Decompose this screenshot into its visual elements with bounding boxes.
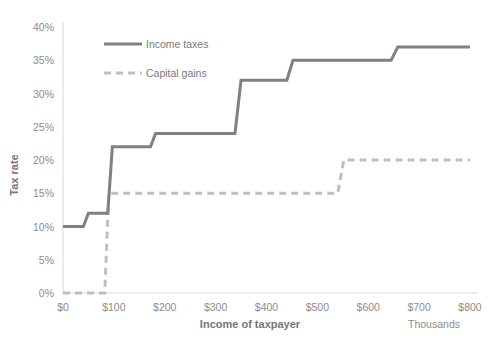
series-line-capital-gains [63, 160, 470, 293]
series-line-income-taxes [63, 47, 470, 227]
tax-rate-chart: 0%5%10%15%20%25%30%35%40% $0$100$200$300… [0, 0, 494, 349]
x-tick-label: $0 [57, 301, 69, 313]
y-axis-title: Tax rate [8, 154, 20, 195]
x-tick-label: $100 [102, 301, 126, 313]
y-tick-label: 30% [33, 88, 54, 100]
x-tick-label: $400 [255, 301, 279, 313]
y-tick-label: 40% [33, 21, 54, 33]
chart-legend: Income taxesCapital gains [104, 38, 208, 79]
x-axis-tick-labels: $0$100$200$300$400$500$600$700$800 [57, 301, 482, 313]
x-tick-label: $700 [407, 301, 431, 313]
x-tick-label: $200 [153, 301, 177, 313]
y-tick-label: 35% [33, 54, 54, 66]
y-tick-label: 5% [39, 254, 54, 266]
x-tick-label: $800 [458, 301, 482, 313]
x-axis-title: Income of taxpayer [200, 318, 301, 330]
legend-label-capital-gains: Capital gains [146, 67, 207, 79]
x-axis-unit-note: Thousands [408, 318, 460, 330]
y-tick-label: 10% [33, 221, 54, 233]
chart-canvas: 0%5%10%15%20%25%30%35%40% $0$100$200$300… [0, 0, 494, 349]
x-tick-label: $500 [306, 301, 330, 313]
y-tick-label: 25% [33, 121, 54, 133]
y-tick-label: 15% [33, 187, 54, 199]
y-axis-tick-labels: 0%5%10%15%20%25%30%35%40% [33, 21, 54, 299]
y-tick-label: 0% [39, 287, 54, 299]
x-tick-label: $600 [357, 301, 381, 313]
legend-label-income-taxes: Income taxes [146, 38, 208, 50]
x-tick-label: $300 [204, 301, 228, 313]
y-tick-label: 20% [33, 154, 54, 166]
